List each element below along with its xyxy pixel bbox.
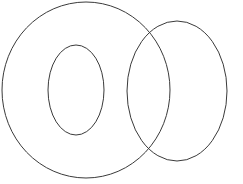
venn-diagram-figure xyxy=(0,0,243,184)
diagram-background xyxy=(0,0,243,184)
diagram-canvas xyxy=(0,0,243,184)
